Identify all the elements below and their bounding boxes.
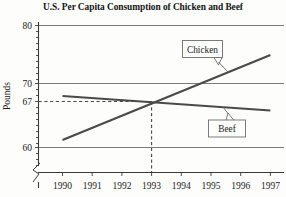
y-minor-ticks [36, 32, 38, 166]
gridlines [38, 26, 284, 148]
callout-chicken: Chicken [183, 41, 229, 73]
x-tick-label-1994: 1994 [172, 181, 191, 191]
x-tick-label-1996: 1996 [231, 181, 250, 191]
callout-beef-tail [226, 113, 234, 121]
x-tick-label-1990: 1990 [53, 181, 72, 191]
callout-beef: Beef [209, 106, 246, 137]
x-tick-label-1991: 1991 [83, 181, 102, 191]
y-tick-label-67: 67 [23, 97, 33, 107]
x-tick-label-1997: 1997 [261, 181, 280, 191]
callout-beef-label: Beef [218, 124, 236, 134]
x-tick-label-1992: 1992 [112, 181, 131, 191]
callout-chicken-label: Chicken [187, 45, 218, 55]
y-tick-label-80: 80 [23, 21, 33, 31]
callout-chicken-leader [219, 62, 229, 72]
y-tick-label-70: 70 [23, 79, 33, 89]
chart-figure: U.S. Per Capita Consumption of Chicken a… [0, 0, 286, 197]
x-tick-label-1993: 1993 [142, 181, 161, 191]
x-tick-label-1995: 1995 [202, 181, 221, 191]
y-tick-label-60: 60 [23, 143, 33, 153]
y-axis-title: Pounds [2, 82, 12, 110]
line-chart-plot: 80 70 67 60 Pounds 1990 1991 1992 1993 1… [0, 0, 286, 197]
